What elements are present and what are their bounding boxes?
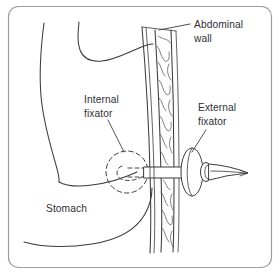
feeding-tube-group <box>144 167 182 178</box>
abdominal-wall-inner-edge <box>142 27 151 253</box>
leader-lines <box>108 24 206 152</box>
label-external-fixator-line2: fixator <box>198 116 227 127</box>
medical-illustration: Abdominal wall Internal fixator External… <box>0 0 280 274</box>
stomach-outline-group <box>24 22 153 246</box>
text-labels: Abdominal wall Internal fixator External… <box>46 19 243 214</box>
leader-abdominal-wall <box>159 24 190 30</box>
label-internal-fixator-line2: fixator <box>84 108 113 119</box>
label-abdominal-wall-line2: wall <box>193 33 212 44</box>
leader-external-fixator <box>192 130 206 152</box>
stomach-antrum-outline <box>24 188 152 246</box>
label-internal-fixator-line1: Internal <box>84 94 119 105</box>
abdominal-wall-outer-edge <box>176 31 179 252</box>
abdominal-wall-texture <box>157 36 173 247</box>
external-fixator-flange <box>181 148 203 196</box>
stomach-fundus-curve <box>40 23 59 182</box>
internal-fixator-disc <box>106 151 148 193</box>
label-stomach: Stomach <box>46 203 87 214</box>
abdominal-wall-muscle-left <box>155 30 162 252</box>
external-fixator-group <box>181 148 248 196</box>
stomach-greater-curvature <box>59 172 137 186</box>
leader-internal-fixator <box>108 120 124 152</box>
internal-fixator-group <box>106 151 148 193</box>
label-abdominal-wall-line1: Abdominal <box>194 19 243 30</box>
label-external-fixator-line1: External <box>198 102 236 113</box>
abdominal-wall-group <box>142 27 179 253</box>
figure-container: Abdominal wall Internal fixator External… <box>0 0 280 274</box>
